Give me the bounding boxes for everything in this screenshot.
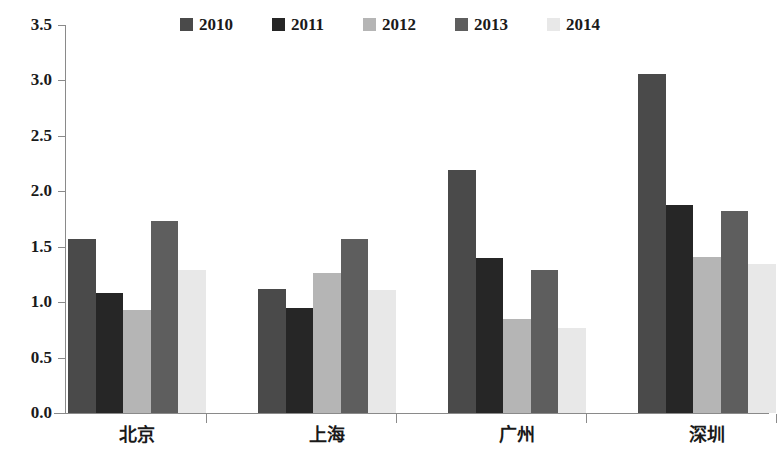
y-axis-tick <box>58 191 65 192</box>
bar-上海-2012[interactable] <box>313 273 341 413</box>
x-axis-tick <box>396 414 397 423</box>
bars-layer <box>65 25 769 413</box>
y-axis-tick-label: 0.0 <box>2 404 52 421</box>
y-axis-tick-label: 2.5 <box>2 127 52 144</box>
y-axis-tick-label: 1.5 <box>2 238 52 255</box>
y-axis-tick-label: 2.0 <box>2 182 52 199</box>
bar-广州-2012[interactable] <box>503 319 531 413</box>
bar-北京-2010[interactable] <box>68 239 96 413</box>
x-axis-category-label: 北京 <box>77 425 197 447</box>
bar-北京-2013[interactable] <box>151 221 179 413</box>
bar-上海-2013[interactable] <box>341 239 369 413</box>
y-axis-tick-label: 1.0 <box>2 293 52 310</box>
x-axis-category-label: 广州 <box>457 425 577 447</box>
bar-深圳-2010[interactable] <box>638 74 666 413</box>
y-axis-tick <box>58 302 65 303</box>
bar-广州-2014[interactable] <box>558 328 586 413</box>
bar-上海-2010[interactable] <box>258 289 286 413</box>
x-axis-tick <box>206 414 207 423</box>
bar-上海-2014[interactable] <box>368 290 396 413</box>
bar-北京-2011[interactable] <box>96 293 124 413</box>
bar-深圳-2011[interactable] <box>666 205 694 413</box>
bar-深圳-2013[interactable] <box>721 211 749 413</box>
x-axis-tick <box>586 414 587 423</box>
y-axis-tick <box>58 80 65 81</box>
bar-北京-2012[interactable] <box>123 310 151 413</box>
bar-上海-2011[interactable] <box>286 308 314 413</box>
bar-广州-2011[interactable] <box>476 258 504 413</box>
x-axis-category-label: 上海 <box>267 425 387 447</box>
y-axis-tick <box>58 25 65 26</box>
bar-广州-2013[interactable] <box>531 270 559 413</box>
bar-深圳-2014[interactable] <box>748 264 776 413</box>
bar-深圳-2012[interactable] <box>693 257 721 413</box>
y-axis-tick <box>58 136 65 137</box>
bar-广州-2010[interactable] <box>448 170 476 413</box>
x-axis-category-label: 深圳 <box>647 425 767 447</box>
x-axis-line <box>54 413 769 414</box>
y-axis-tick-label: 0.5 <box>2 349 52 366</box>
y-axis-tick <box>58 247 65 248</box>
y-axis-tick-label: 3.0 <box>2 71 52 88</box>
y-axis-tick <box>58 358 65 359</box>
bar-北京-2014[interactable] <box>178 270 206 413</box>
y-axis-tick-label: 3.5 <box>2 16 52 33</box>
